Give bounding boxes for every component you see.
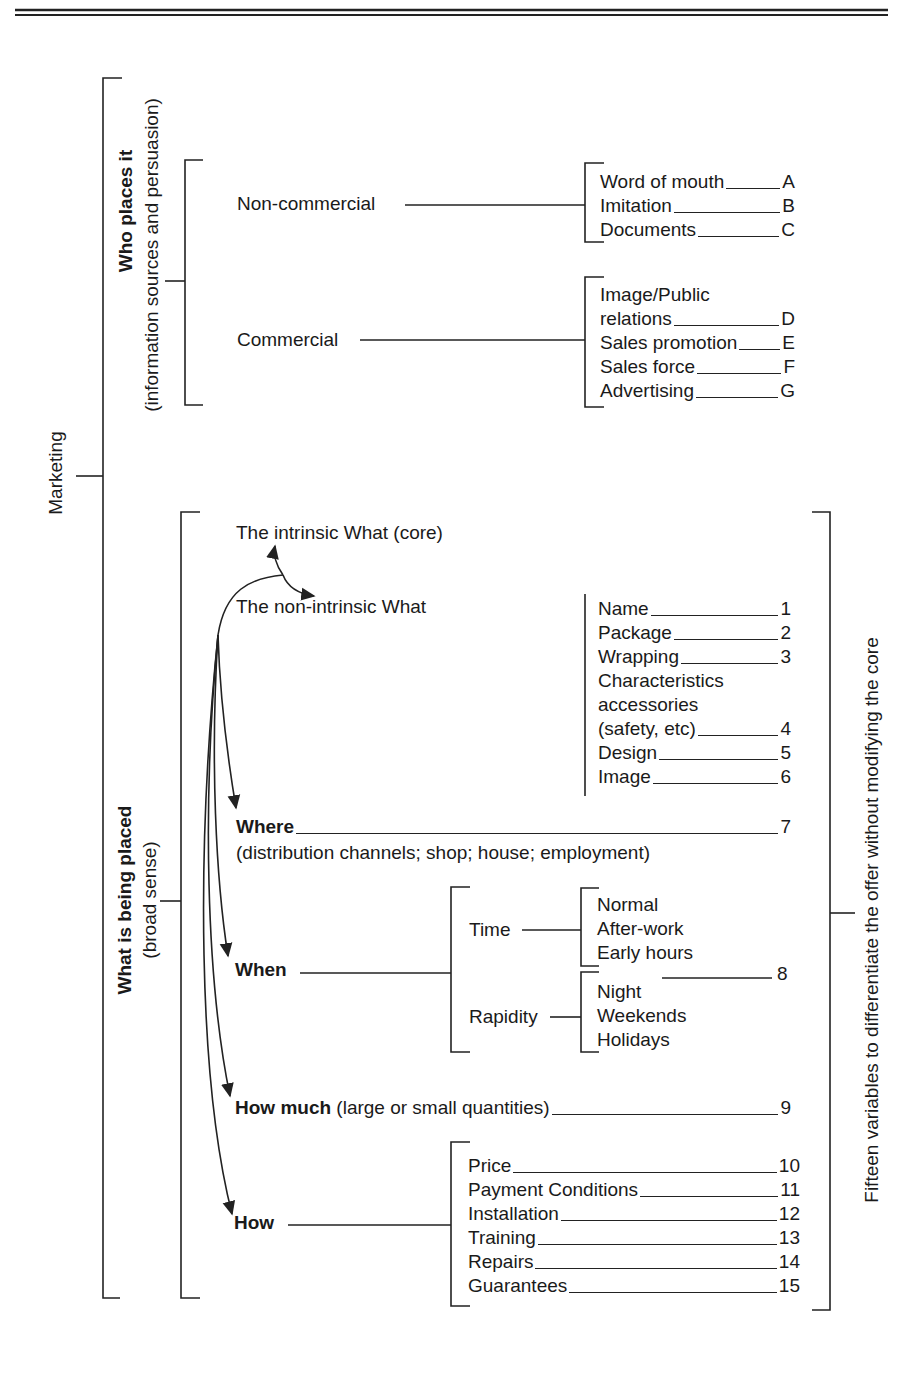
what-subtitle: (broad sense) — [138, 840, 162, 960]
list-item: Sales promotionE — [600, 331, 795, 355]
list-item: Characteristics — [598, 669, 724, 693]
list-item: Image/Public — [600, 283, 710, 307]
what-title: What is being placed — [113, 790, 137, 1010]
list-item: (safety, etc)4 — [598, 717, 791, 741]
right-label: Fifteen variables to differentiate the o… — [860, 600, 884, 1240]
list-item: Normal — [597, 893, 658, 917]
list-item: relationsD — [600, 307, 795, 331]
list-item: ImitationB — [600, 194, 795, 218]
where-detail: (distribution channels; shop; house; emp… — [236, 841, 650, 865]
list-item: accessories — [598, 693, 698, 717]
when-label: When — [235, 958, 287, 982]
nonintrinsic-what: The non-intrinsic What — [236, 595, 426, 619]
who-title-text: Who places it — [115, 150, 136, 272]
list-item: Guarantees15 — [468, 1274, 800, 1298]
list-item: Package2 — [598, 621, 791, 645]
root-label: Marketing — [44, 423, 68, 523]
list-item: Image6 — [598, 765, 791, 789]
howmuch-row: How much (large or small quantities)9 — [235, 1096, 791, 1120]
intrinsic-what: The intrinsic What (core) — [236, 521, 443, 545]
list-item: Night — [597, 980, 641, 1004]
list-item: Installation12 — [468, 1202, 800, 1226]
commercial-label: Commercial — [237, 328, 338, 352]
list-item: Design5 — [598, 741, 791, 765]
list-item: Sales forceF — [600, 355, 795, 379]
when-code: 8 — [777, 962, 788, 986]
list-item: AdvertisingG — [600, 379, 795, 403]
list-item: Holidays — [597, 1028, 670, 1052]
list-item: Weekends — [597, 1004, 686, 1028]
time-label: Time — [469, 918, 511, 942]
list-item: Early hours — [597, 941, 693, 965]
who-title: Who places it — [114, 76, 138, 346]
list-item: Training13 — [468, 1226, 800, 1250]
list-item: After-work — [597, 917, 684, 941]
rapidity-label: Rapidity — [469, 1005, 538, 1029]
noncommercial-label: Non-commercial — [237, 192, 375, 216]
how-label: How — [234, 1211, 274, 1235]
list-item: DocumentsC — [600, 218, 795, 242]
list-item: Wrapping3 — [598, 645, 791, 669]
who-subtitle: (information sources and persuasion) — [140, 55, 164, 455]
where-row: Where7 — [236, 815, 791, 839]
list-item: Name1 — [598, 597, 791, 621]
list-item: Word of mouthA — [600, 170, 795, 194]
list-item: Repairs14 — [468, 1250, 800, 1274]
what-title-text: What is being placed — [114, 806, 135, 995]
list-item: Price10 — [468, 1154, 800, 1178]
list-item: Payment Conditions11 — [468, 1178, 800, 1202]
